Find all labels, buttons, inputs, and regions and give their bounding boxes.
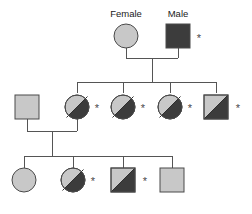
individual-III-4-square-unaffected[interactable]	[160, 168, 184, 192]
individual-II-4-square-half[interactable]	[204, 95, 228, 119]
individual-III-1-circle-unaffected[interactable]	[12, 168, 36, 192]
label-male: Male	[168, 8, 189, 19]
asterisk-II-1: *	[95, 102, 100, 114]
asterisk-I-2: *	[197, 32, 202, 44]
asterisk-II-3: *	[188, 102, 193, 114]
pedigree-diagram: Female Male * *	[0, 0, 252, 214]
asterisk-II-4: *	[236, 102, 241, 114]
individual-III-3-square-half[interactable]	[111, 168, 135, 192]
pedigree-chart: Female Male * *	[0, 0, 252, 214]
generation-3: * *	[12, 168, 184, 192]
individual-II-2-circle-half[interactable]	[111, 95, 135, 119]
asterisk-III-2: *	[91, 175, 96, 187]
asterisk-III-3: *	[143, 175, 148, 187]
asterisk-II-2: *	[141, 102, 146, 114]
individual-III-2-circle-half[interactable]	[61, 168, 85, 192]
label-female: Female	[110, 8, 142, 19]
individual-II-0-square-unaffected-spouse[interactable]	[15, 95, 39, 119]
individual-II-3-circle-half[interactable]	[158, 95, 182, 119]
generation-1: Female Male *	[110, 8, 202, 48]
individual-I-2-square-affected[interactable]	[166, 24, 190, 48]
individual-I-1-circle-unaffected[interactable]	[114, 24, 138, 48]
individual-II-1-circle-half[interactable]	[65, 95, 89, 119]
generation-2: * * *	[15, 95, 241, 119]
